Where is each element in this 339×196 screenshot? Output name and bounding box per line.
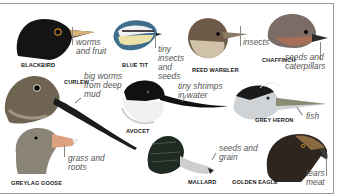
blackbird-label: BLACKBIRD [21, 62, 55, 68]
blackbird-food: worms and fruit [76, 38, 106, 56]
blue-tit-food: tiny insects and seeds [158, 45, 184, 81]
frame-top-border [0, 3, 334, 4]
grey-heron-label: GREY HERON [255, 117, 294, 123]
greylag-goose-label: GREYLAG GOOSE [11, 180, 62, 186]
greylag-goose-leader-line [64, 145, 65, 157]
blue-tit-leader-line [155, 36, 156, 48]
golden-eagle-label: GOLDEN EAGLE [232, 179, 278, 185]
reed-warbler-leader-line [240, 26, 241, 46]
greylag-goose-food: grass and roots [68, 154, 105, 172]
mallard-label: MALLARD [188, 179, 216, 185]
mallard-food: seeds and grain [219, 144, 258, 162]
chaffinch-label: CHAFFINCH [262, 57, 296, 63]
chaffinch-head-illustration [266, 12, 332, 50]
frame-right-border [333, 3, 334, 194]
mallard-head-illustration [146, 134, 216, 178]
avocet-food: tiny shrimps in water [178, 82, 223, 100]
frame-bottom-border [0, 193, 334, 194]
blackbird-leader-line [72, 27, 73, 45]
blue-tit-head-illustration [110, 17, 160, 55]
reed-warbler-label: REED WARBLER [192, 67, 239, 73]
golden-eagle-food: tears meat [306, 169, 325, 187]
blue-tit-label: BLUE TIT [122, 62, 148, 68]
grey-heron-food: fish [306, 112, 319, 121]
golden-eagle-leader-line [326, 158, 327, 176]
curlew-food: big worms from deep mud [84, 72, 122, 99]
